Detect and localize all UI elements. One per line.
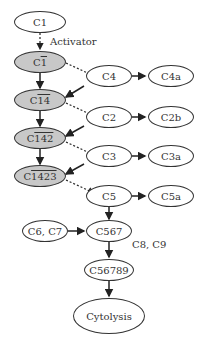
- node-label-prefix: C: [30, 95, 38, 106]
- activator-label: Activator: [50, 36, 96, 47]
- node-label-prefix: C: [23, 171, 31, 182]
- node-c3: C3: [86, 145, 132, 167]
- node-label: C56789: [89, 265, 128, 276]
- node-label: C567: [96, 226, 123, 237]
- node-label: C5a: [161, 191, 181, 202]
- node-label: C2b: [161, 112, 181, 123]
- node-label-bar: 14: [37, 95, 50, 106]
- node-c2: C2: [86, 106, 132, 128]
- node-c4a: C4a: [148, 65, 194, 87]
- node-label: C1: [33, 17, 47, 28]
- node-c1: C1: [14, 11, 66, 33]
- node-c142: C142: [14, 127, 66, 149]
- node-c6-c7: C6, C7: [22, 220, 68, 242]
- node-label: C4: [102, 71, 116, 82]
- arrow-c4-c14: [66, 86, 84, 97]
- node-label: C6, C7: [28, 226, 62, 237]
- node-c1423: C1423: [14, 165, 66, 187]
- node-label: C4a: [161, 71, 181, 82]
- node-cytolysis: Cytolysis: [73, 298, 145, 334]
- node-label-bar: 1: [41, 57, 47, 68]
- node-c56789: C56789: [84, 259, 134, 281]
- node-c5: C5: [86, 185, 132, 207]
- node-label: C5: [102, 191, 116, 202]
- node-label: C3a: [161, 151, 181, 162]
- node-label: Cytolysis: [86, 311, 132, 322]
- arrow-c3-c1423: [66, 164, 84, 174]
- node-label-bar: 142: [34, 133, 53, 144]
- node-label-prefix: C: [33, 57, 41, 68]
- node-label-bar: 1423: [31, 171, 56, 182]
- c8-c9-label: C8, C9: [132, 239, 166, 250]
- node-label-prefix: C: [27, 133, 35, 144]
- node-c3a: C3a: [148, 145, 194, 167]
- node-c5a: C5a: [148, 185, 194, 207]
- arrow-c2-c142: [66, 126, 84, 136]
- node-label: C3: [102, 151, 116, 162]
- node-c567: C567: [86, 220, 132, 242]
- node-label: C2: [102, 112, 116, 123]
- node-c1-activated: C1: [14, 51, 66, 73]
- node-c2b: C2b: [148, 106, 194, 128]
- node-c14: C14: [14, 89, 66, 111]
- node-c4: C4: [86, 65, 132, 87]
